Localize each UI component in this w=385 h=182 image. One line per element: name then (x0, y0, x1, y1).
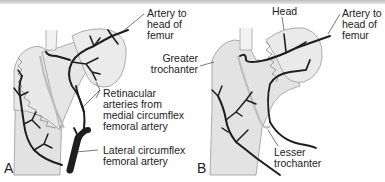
label-lateral-circumflex-femoral-artery: Lateral circumflex femoral artery (103, 145, 185, 167)
label-lesser-trochanter: Lesser trochanter (274, 147, 321, 169)
femur-diagram (0, 0, 385, 182)
label-artery-to-head-of-femur-a: Artery to head of femur (147, 8, 187, 41)
panel-letter-a: A (4, 160, 13, 176)
panel-letter-b: B (197, 160, 206, 176)
label-artery-to-head-of-femur-b: Artery to head of femur (342, 8, 382, 41)
label-head: Head (272, 6, 297, 17)
label-retinacular-arteries: Retinacular arteries from medial circumf… (103, 88, 184, 132)
label-greater-trochanter: Greater trochanter (150, 53, 198, 75)
